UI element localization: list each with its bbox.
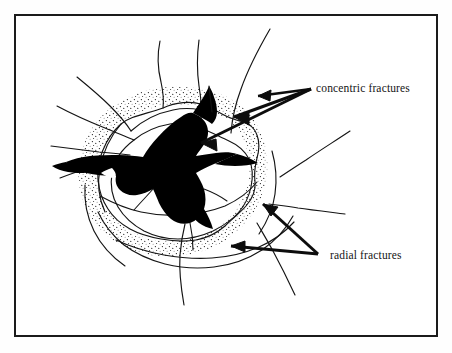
impact-crater-diagram	[0, 0, 452, 353]
caption-text-sliver	[16, 347, 436, 353]
annotation-label-radial-fractures: radial fractures	[330, 249, 402, 261]
figure-root: concentric fractures radial fractures	[0, 0, 452, 353]
annotation-label-concentric-fractures: concentric fractures	[316, 82, 410, 94]
